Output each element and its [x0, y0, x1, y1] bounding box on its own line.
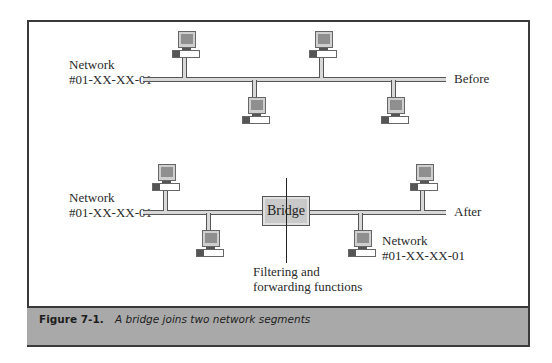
after-state-label: After [454, 204, 481, 219]
network-drop-line [391, 80, 396, 98]
computer-icon [348, 230, 376, 260]
after-left-network-label-line2: #01-XX-XX-01 [69, 205, 152, 220]
computer-icon [172, 31, 200, 61]
network-drop-line [252, 80, 257, 98]
before-network-label-line1: Network [69, 57, 115, 72]
computer-icon [381, 97, 409, 127]
figure-caption-bar: Figure 7-1. A bridge joins two network s… [27, 306, 528, 345]
figure-number: Figure 7-1. [39, 313, 104, 325]
after-right-network-label-line1: Network [382, 233, 428, 248]
network-drop-line [206, 213, 211, 231]
function-label-line1: Filtering and [253, 264, 320, 279]
figure-caption: A bridge joins two network segments [115, 313, 310, 325]
function-label-line2: forwarding functions [253, 279, 362, 294]
filtering-divider-line [286, 178, 287, 263]
computer-icon [196, 230, 224, 260]
before-network-label-line2: #01-XX-XX-01 [69, 72, 152, 87]
computer-icon [309, 31, 337, 61]
before-network-bus [143, 77, 446, 82]
after-right-network-label-line2: #01-XX-XX-01 [382, 248, 465, 263]
network-drop-line [358, 213, 363, 231]
after-right-network-bus [310, 210, 446, 215]
computer-icon [410, 164, 438, 194]
after-left-network-bus [143, 210, 263, 215]
bridge-diagram: Network #01-XX-XX-01 Before Network #01-… [0, 0, 552, 306]
after-left-network-label-line1: Network [69, 190, 115, 205]
computer-icon [242, 97, 270, 127]
computer-icon [152, 164, 180, 194]
before-state-label: Before [454, 71, 489, 86]
